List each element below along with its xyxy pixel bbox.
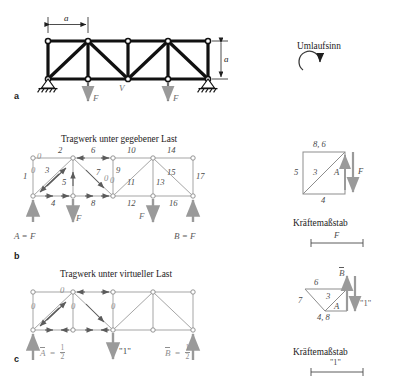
scale-title-b: Kräftemaßstab xyxy=(293,219,348,228)
dimension-height-label: a xyxy=(224,55,229,64)
member-label-7: 7 xyxy=(96,168,100,177)
reaction-a-virtual: A = 1 2 xyxy=(40,344,65,360)
reaction-a-label: A = F xyxy=(14,232,35,241)
scale-value-b: F xyxy=(334,231,339,240)
member-label-4: 4 xyxy=(51,199,55,208)
panel-c-title: Tragwerk unter virtueller Last xyxy=(60,270,172,279)
panel-b-truss xyxy=(31,156,195,222)
support-roller-right xyxy=(198,79,218,92)
zero-marker-c-4: 0 xyxy=(111,302,115,311)
zero-marker-c-1: 0 xyxy=(60,286,64,295)
member-label-5: 5 xyxy=(62,178,66,187)
panel-b-title: Tragwerk unter gegebener Last xyxy=(61,135,177,144)
polygon-b-top-label: 8, 6 xyxy=(313,140,326,149)
polygon-b-inner-label: A xyxy=(334,168,339,177)
dimension-span-label: a xyxy=(64,14,69,23)
member-label-12: 12 xyxy=(127,199,136,208)
zero-marker-b-1: 0 xyxy=(37,152,41,161)
member-label-9: 9 xyxy=(116,166,120,175)
panel-b-load-left-label: F xyxy=(76,214,82,223)
panel-a-verticals xyxy=(48,41,208,79)
panel-b-force-arrows xyxy=(40,158,109,196)
member-label-11: 11 xyxy=(127,178,135,187)
member-label-17: 17 xyxy=(196,172,205,181)
panel-b-load-right-label: F xyxy=(139,212,145,221)
panel-a-load-left-label: F xyxy=(93,94,99,103)
panel-a-load-right-label: F xyxy=(173,94,179,103)
panel-a-loads xyxy=(88,82,168,101)
reaction-b-label: B = F xyxy=(174,232,196,241)
zero-marker-b-3: 0 xyxy=(104,174,108,183)
member-label-16: 16 xyxy=(169,199,178,208)
polygon-b-bottom-label: 4 xyxy=(321,196,325,205)
virtual-load-label: "1" xyxy=(119,347,131,356)
panel-letter-b: b xyxy=(14,252,20,261)
member-label-14: 14 xyxy=(167,146,176,155)
member-label-8: 8 xyxy=(91,199,95,208)
panel-c-force-arrows xyxy=(40,292,109,330)
zero-marker-b-4: 0 xyxy=(110,176,114,185)
zero-marker-b-2: 0 xyxy=(31,166,35,175)
zero-marker-c-3: 0 xyxy=(71,302,75,311)
polygon-b-diag-label: 3 xyxy=(313,168,317,177)
panel-b-force-polygon xyxy=(303,152,363,247)
member-label-2: 2 xyxy=(58,146,62,155)
member-label-3: 3 xyxy=(45,166,49,175)
polygon-c-reaction-label: B xyxy=(339,269,345,278)
reaction-a-virtual-symbol: A xyxy=(40,349,46,358)
umlaufsinn-title: Umlaufsinn xyxy=(297,42,341,51)
polygon-c-diag-label: 3 xyxy=(326,292,330,301)
panel-b-scale-bar xyxy=(311,239,363,247)
member-label-15: 15 xyxy=(167,168,176,177)
polygon-b-left-label: 5 xyxy=(294,168,298,177)
zero-marker-c-2: 0 xyxy=(31,302,35,311)
polygon-c-bottom-label: 4, 8 xyxy=(317,313,330,322)
member-label-13: 13 xyxy=(156,178,165,187)
support-pin-left xyxy=(38,79,58,92)
polygon-c-left-label: 7 xyxy=(298,296,302,305)
polygon-c-inner-label: A xyxy=(334,302,339,311)
ccw-arc-arrow-icon xyxy=(299,51,320,70)
polygon-c-top-label: 6 xyxy=(314,278,318,287)
member-label-6: 6 xyxy=(91,146,95,155)
panel-c-scale-bar xyxy=(311,368,363,376)
figure-root: a a V F F a Umlaufsinn Tragwerk unter ge… xyxy=(0,0,394,388)
member-label-1: 1 xyxy=(23,172,27,181)
panel-letter-c: c xyxy=(14,355,19,364)
reaction-b-virtual-eq: = xyxy=(173,348,183,358)
shear-label-v: V xyxy=(119,84,125,93)
reaction-a-virtual-fraction: 1 2 xyxy=(60,344,66,360)
panel-a-truss xyxy=(38,17,320,101)
reaction-a-virtual-eq: = xyxy=(48,348,58,358)
panel-letter-a: a xyxy=(14,92,19,101)
scale-title-c: Kräftemaßstab xyxy=(293,348,348,357)
reaction-b-virtual-symbol: B xyxy=(165,349,171,358)
polygon-b-force-label: F xyxy=(358,167,363,176)
figure-svg xyxy=(0,0,394,388)
member-label-10: 10 xyxy=(127,146,136,155)
polygon-c-force-label: "1" xyxy=(360,299,371,308)
reaction-b-virtual: B = 1 2 xyxy=(165,344,190,360)
reaction-b-virtual-fraction: 1 2 xyxy=(185,344,191,360)
scale-value-c: "1" xyxy=(330,359,341,367)
